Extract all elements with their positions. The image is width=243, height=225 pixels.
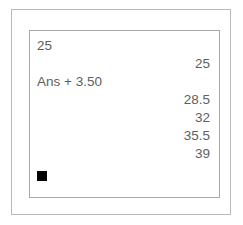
entry-line: 25 bbox=[37, 37, 210, 55]
calculator-frame: 25 25 Ans + 3.50 28.5 32 35.5 39 bbox=[11, 9, 231, 215]
result-line: 28.5 bbox=[37, 91, 210, 109]
result-line: 25 bbox=[37, 55, 210, 73]
entry-line: Ans + 3.50 bbox=[37, 73, 210, 91]
result-line: 32 bbox=[37, 109, 210, 127]
result-line: 39 bbox=[37, 145, 210, 163]
result-line: 35.5 bbox=[37, 127, 210, 145]
cursor-block-icon bbox=[37, 171, 47, 181]
calculator-screen[interactable]: 25 25 Ans + 3.50 28.5 32 35.5 39 bbox=[29, 30, 220, 198]
screen-line-list: 25 25 Ans + 3.50 28.5 32 35.5 39 bbox=[30, 31, 219, 197]
cursor-row bbox=[37, 171, 47, 181]
